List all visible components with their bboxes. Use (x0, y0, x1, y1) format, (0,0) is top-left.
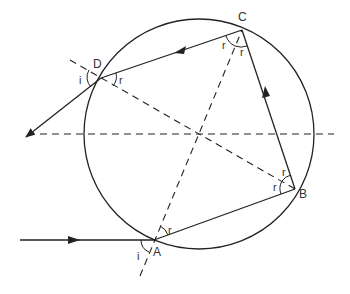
ray-C-D (101, 30, 242, 78)
ray-A-B (154, 189, 295, 240)
angle-arc-A-i (141, 240, 149, 252)
incident-arrow-icon (68, 236, 80, 244)
angle-arc-B-r2 (280, 181, 282, 194)
ray-B-C (242, 30, 295, 189)
angle-label-A-i: i (137, 251, 139, 262)
ray-C-D-arrow-icon (174, 46, 186, 54)
point-label-B: B (299, 188, 307, 200)
angle-label-D-i: i (79, 75, 81, 86)
angle-arc-D-r (113, 73, 116, 86)
angle-label-C-r1: r (222, 40, 226, 51)
angle-arc-C-r1 (226, 36, 235, 46)
angle-label-C-r2: r (240, 47, 244, 58)
normal-D-B-dashed (70, 60, 295, 189)
angle-label-B-r1: r (282, 167, 286, 178)
point-label-C: C (238, 11, 247, 23)
point-label-D: D (93, 58, 102, 70)
ray-diagram (0, 0, 350, 294)
point-label-A: A (153, 246, 161, 258)
angle-arc-D-i (87, 70, 91, 87)
angle-label-A-r: r (168, 225, 172, 236)
angle-label-D-r: r (119, 75, 123, 86)
angle-arc-A-r (160, 226, 168, 235)
emergent-ray (26, 78, 101, 137)
angle-label-B-r2: r (273, 182, 277, 193)
